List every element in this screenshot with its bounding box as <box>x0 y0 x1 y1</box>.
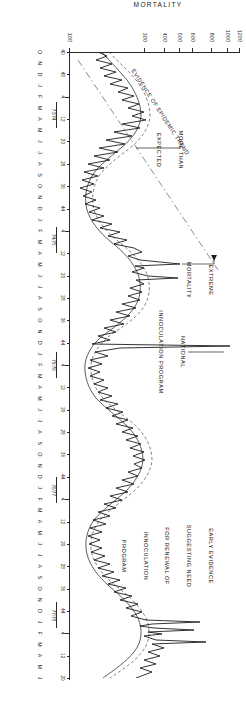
x-axis-month-letter: J <box>37 140 43 143</box>
x-axis-month-letter: M <box>37 374 43 379</box>
x-axis-week-label: 12 <box>60 385 65 390</box>
x-axis-week-label: 4 <box>60 632 65 635</box>
x-axis-month-letter: M <box>37 396 43 401</box>
annotation-line: FOR RENEWAL OF <box>163 525 170 588</box>
annotation-line: EXTREME <box>206 262 213 298</box>
x-axis-tick <box>65 633 70 634</box>
x-axis-month-letter: M <box>37 262 43 267</box>
x-axis-month-letter: A <box>37 251 43 255</box>
arrowhead-extreme-mortality <box>211 255 217 261</box>
x-axis-week-label: 28 <box>60 295 65 300</box>
x-axis-year-rule <box>56 102 57 128</box>
x-axis-tick <box>67 209 70 210</box>
rotated-chart-canvas: MORTALITY 10030040050060080010001200 404… <box>0 0 246 710</box>
x-axis-week-label: 40 <box>60 49 65 54</box>
x-axis-tick <box>67 522 70 523</box>
x-axis-tick <box>67 186 70 187</box>
x-axis-week-label: 20 <box>60 139 65 144</box>
x-axis-month-letter: N <box>37 61 43 65</box>
x-axis-tick <box>67 253 70 254</box>
x-axis-month-letter: S <box>37 576 43 580</box>
x-axis-month-letter: J <box>37 542 43 545</box>
x-axis-tick <box>67 74 70 75</box>
x-axis-month-letter: A <box>37 654 43 658</box>
x-axis-month-letter: A <box>37 117 43 121</box>
x-axis-week-label: 36 <box>60 318 65 323</box>
y-axis-tick-label: 1000 <box>225 30 231 42</box>
x-axis-month-letter: F <box>37 497 43 500</box>
annotation-early-evidence: EARLY EVIDENCE SUGGESTING NEED FOR RENEW… <box>106 525 228 588</box>
annotation-line: INNOCULATION PROGRAM <box>157 310 164 393</box>
x-axis-month-letter: O <box>37 50 43 54</box>
x-axis-month-letter: N <box>37 598 43 602</box>
x-axis-month-letter: O <box>37 586 43 590</box>
x-axis-tick <box>67 410 70 411</box>
x-axis-month-letter: F <box>37 363 43 366</box>
x-axis-month-letter: A <box>37 430 43 434</box>
x-axis-month-letter: A <box>37 564 43 568</box>
x-axis-month-letter: D <box>37 609 43 613</box>
x-axis-tick <box>67 611 70 612</box>
x-axis-month-letter: M <box>37 665 43 670</box>
x-axis-week-label: 36 <box>60 586 65 591</box>
annotation-line: NATIONAL <box>178 310 185 393</box>
x-axis-month-letter: N <box>37 195 43 199</box>
x-axis-month-letter: M <box>37 530 43 535</box>
x-axis-month-letter: S <box>37 441 43 445</box>
x-axis-week-label: 20 <box>60 407 65 412</box>
x-axis-month-letter: S <box>37 307 43 311</box>
x-axis-month-letter: M <box>37 106 43 111</box>
x-axis-month-letter: D <box>37 207 43 211</box>
x-axis-month-letter: F <box>37 632 43 635</box>
annotation-line: SUGGESTING NEED <box>185 525 192 588</box>
x-axis-tick <box>67 298 70 299</box>
x-axis-month-letter: J <box>37 84 43 87</box>
x-axis-week-label: 44 <box>60 608 65 613</box>
x-axis-year-rule <box>56 352 57 378</box>
x-axis-month-letter: J <box>37 554 43 557</box>
x-axis-week-label: 20 <box>60 675 65 680</box>
x-axis-week-label: 28 <box>60 564 65 569</box>
x-axis-month-letter: A <box>37 162 43 166</box>
x-axis-week-label: 36 <box>60 184 65 189</box>
x-axis-week-label: 44 <box>60 340 65 345</box>
x-axis-week-label: 12 <box>60 653 65 658</box>
x-axis-tick <box>67 678 70 679</box>
x-axis-month-letter: N <box>37 464 43 468</box>
x-axis-month-letter: O <box>37 184 43 188</box>
annotation-line: MORTALITY <box>185 262 192 298</box>
x-axis-month-letter: N <box>37 330 43 334</box>
x-axis-week-label: 28 <box>60 430 65 435</box>
annotation-national-program: NATIONAL INNOCULATION PROGRAM <box>142 310 200 393</box>
y-axis-tick-label: 300 <box>142 33 148 42</box>
x-axis-month-letter: D <box>37 475 43 479</box>
x-axis-tick <box>67 589 70 590</box>
x-axis-month-letter: O <box>37 318 43 322</box>
x-axis-month-letter: S <box>37 173 43 177</box>
x-axis-year-rule <box>56 227 57 253</box>
x-axis-month-letter: M <box>37 642 43 647</box>
x-axis-week-label: 20 <box>60 541 65 546</box>
x-axis-week-label: 44 <box>60 474 65 479</box>
x-axis-year-rule <box>56 602 57 628</box>
x-axis-week-label: 12 <box>60 519 65 524</box>
x-axis-tick <box>65 365 70 366</box>
x-axis-week-label: 28 <box>60 161 65 166</box>
x-axis-tick <box>67 164 70 165</box>
x-axis-month-letter: M <box>37 508 43 513</box>
annotation-line: EARLY EVIDENCE <box>206 525 213 588</box>
x-axis-month-letter: F <box>37 95 43 98</box>
x-axis-month-letter: M <box>37 240 43 245</box>
x-axis-month-letter: J <box>37 621 43 624</box>
x-axis-tick <box>65 499 70 500</box>
x-axis-tick <box>67 566 70 567</box>
x-axis-month-letter: D <box>37 72 43 76</box>
x-axis-month-letter: A <box>37 386 43 390</box>
y-axis-tick-label: 600 <box>190 33 196 42</box>
x-axis-month-letter: A <box>37 296 43 300</box>
x-axis-year-rule <box>56 477 57 503</box>
x-axis-tick <box>67 343 70 344</box>
x-axis-month-letter: J <box>37 420 43 423</box>
y-axis-tick-label: 400 <box>162 33 168 42</box>
x-axis-month-letter: M <box>37 128 43 133</box>
